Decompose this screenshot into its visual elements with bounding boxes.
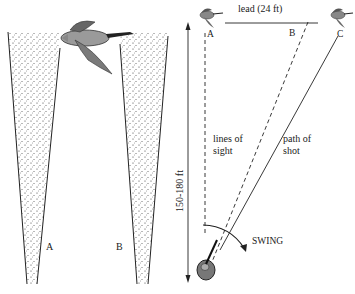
lines-of-sight-label-2: sight xyxy=(213,145,232,156)
goose-at-c-icon xyxy=(331,9,353,28)
goose-at-a-icon xyxy=(200,9,223,28)
point-a-label: A xyxy=(207,29,214,40)
lines-of-sight-label-1: lines of xyxy=(213,133,243,144)
cone-a-label: A xyxy=(46,241,53,252)
distance-arrow xyxy=(186,22,191,283)
shooter-icon xyxy=(197,240,217,280)
path-of-shot-label-1: path of xyxy=(283,133,311,144)
swing-label: SWING xyxy=(252,236,283,247)
point-b-label: B xyxy=(289,28,295,39)
diagram-canvas xyxy=(0,0,355,294)
swing-arrow xyxy=(203,225,247,252)
cone-b-label: B xyxy=(116,241,123,252)
distance-label: 150-180 ft xyxy=(174,170,185,212)
shot-pattern-cone-b xyxy=(120,32,168,284)
lead-label: lead (24 ft) xyxy=(238,3,282,14)
point-c-label: C xyxy=(337,29,343,40)
path-of-shot-label-2: shot xyxy=(283,145,300,156)
